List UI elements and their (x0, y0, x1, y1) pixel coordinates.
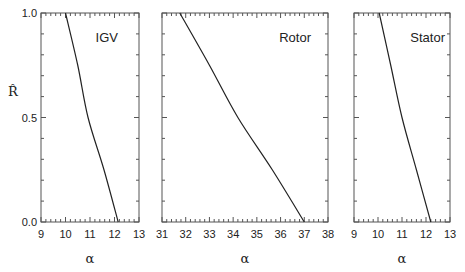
panel-3-x-tick-label: 13 (444, 228, 456, 240)
panel-3-x-tick-label: 11 (396, 228, 407, 240)
panel-3-x-axis-label: α (398, 251, 407, 266)
panel-2-x-tick-label: 31 (156, 228, 168, 240)
panel-1-x-axis-label: α (86, 251, 95, 266)
panel-3-x-tick-label: 10 (372, 228, 384, 240)
panel-2-x-tick-label: 37 (298, 228, 310, 240)
panel-1-y-axis-label: R̂ (8, 84, 19, 99)
panel-1-x-tick-label: 10 (59, 228, 71, 240)
panel-1-x-tick-label: 12 (108, 228, 120, 240)
panel-1-title: IGV (96, 30, 119, 45)
panel-2-x-tick-label: 38 (322, 228, 334, 240)
panel-1-x-tick-label: 11 (84, 228, 95, 240)
panel-1-y-tick-label: 0.5 (22, 112, 37, 124)
panel-2-x-tick-label: 35 (251, 228, 263, 240)
panel-3-x-tick-label: 9 (351, 228, 357, 240)
panel-1-frame (41, 13, 139, 222)
panel-1-x-tick-label: 13 (133, 228, 145, 240)
panel-1-y-tick-label: 0.0 (22, 216, 37, 228)
panel-1-y-tick-label: 1.0 (22, 7, 37, 19)
chart: 9101112130.00.51.0αR̂IGV3132333435363738… (0, 0, 465, 272)
panel-2-x-tick-label: 34 (227, 228, 239, 240)
panel-2-x-axis-label: α (241, 251, 250, 266)
panel-2-x-tick-label: 32 (180, 228, 192, 240)
panel-2-x-tick-label: 33 (203, 228, 215, 240)
panel-2-x-tick-label: 36 (274, 228, 286, 240)
panel-3-x-tick-label: 12 (420, 228, 432, 240)
panel-2-title: Rotor (279, 30, 311, 45)
panel-3-title: Stator (410, 30, 445, 45)
panel-1-x-tick-label: 9 (38, 228, 44, 240)
